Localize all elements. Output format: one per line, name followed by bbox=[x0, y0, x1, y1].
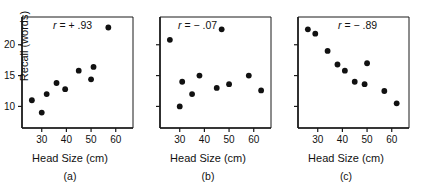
panel-c: 30405060 r = − .89 Head Size (cm) (c) bbox=[276, 0, 416, 192]
data-point bbox=[29, 97, 35, 103]
data-point bbox=[177, 104, 183, 110]
data-point bbox=[394, 100, 400, 106]
y-tick-label: 10 bbox=[4, 101, 16, 112]
scatterplot-figure: 30405060101520 Recall (words) r = + .93 … bbox=[0, 0, 421, 192]
data-point bbox=[179, 79, 185, 85]
data-point bbox=[62, 86, 68, 92]
panel-a-letter: (a) bbox=[0, 170, 140, 182]
data-point bbox=[381, 88, 387, 94]
data-point bbox=[342, 68, 348, 74]
data-point bbox=[325, 48, 331, 54]
data-point bbox=[167, 37, 173, 43]
panel-a: 30405060101520 Recall (words) r = + .93 … bbox=[0, 0, 140, 192]
data-point bbox=[335, 62, 341, 68]
data-point bbox=[197, 73, 203, 79]
data-point bbox=[105, 25, 111, 31]
data-point bbox=[219, 26, 225, 32]
data-point bbox=[91, 64, 97, 70]
panel-b-x-axis-title: Head Size (cm) bbox=[138, 152, 278, 164]
data-point bbox=[39, 110, 45, 116]
panel-a-x-axis-title: Head Size (cm) bbox=[0, 152, 140, 164]
panel-b-correlation-annotation: r = − .07 bbox=[178, 19, 217, 31]
panel-c-x-axis-title: Head Size (cm) bbox=[276, 152, 416, 164]
panel-a-r-value: = + .93 bbox=[57, 19, 93, 31]
panel-b-r-value: = − .07 bbox=[182, 19, 218, 31]
panel-b-letter: (b) bbox=[138, 170, 278, 182]
panel-c-r-value: = − .89 bbox=[342, 19, 378, 31]
data-point bbox=[246, 73, 252, 79]
data-point bbox=[312, 31, 318, 37]
x-tick-label: 60 bbox=[386, 134, 398, 145]
data-point bbox=[305, 26, 311, 32]
panel-a-y-axis-title: Recall (words) bbox=[18, 0, 30, 96]
y-tick-label: 20 bbox=[4, 39, 16, 50]
data-point bbox=[44, 91, 50, 97]
data-point bbox=[364, 60, 370, 66]
panel-c-correlation-annotation: r = − .89 bbox=[338, 19, 377, 31]
data-point bbox=[258, 87, 264, 93]
panel-a-correlation-annotation: r = + .93 bbox=[53, 19, 92, 31]
data-point bbox=[352, 79, 358, 85]
x-tick-label: 50 bbox=[86, 134, 98, 145]
data-point bbox=[189, 91, 195, 97]
y-tick-label: 15 bbox=[4, 70, 16, 81]
x-tick-label: 30 bbox=[312, 134, 324, 145]
panel-b: 30405060 r = − .07 Head Size (cm) (b) bbox=[138, 0, 278, 192]
x-tick-label: 40 bbox=[199, 134, 211, 145]
x-tick-label: 50 bbox=[362, 134, 374, 145]
data-point bbox=[226, 81, 232, 87]
x-tick-label: 30 bbox=[36, 134, 48, 145]
x-tick-label: 50 bbox=[224, 134, 236, 145]
x-tick-label: 40 bbox=[337, 134, 349, 145]
data-point bbox=[54, 80, 60, 86]
x-tick-label: 60 bbox=[248, 134, 260, 145]
data-point bbox=[76, 68, 82, 74]
data-point bbox=[362, 81, 368, 87]
x-tick-label: 60 bbox=[110, 134, 122, 145]
x-tick-label: 40 bbox=[61, 134, 73, 145]
panel-c-letter: (c) bbox=[276, 170, 416, 182]
data-point bbox=[88, 76, 94, 82]
data-point bbox=[214, 85, 220, 91]
x-tick-label: 30 bbox=[174, 134, 186, 145]
